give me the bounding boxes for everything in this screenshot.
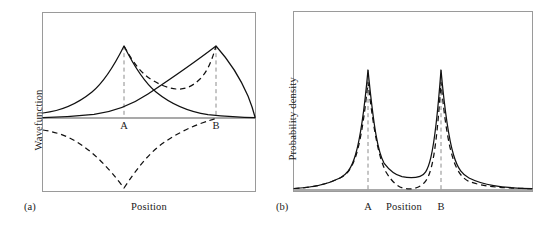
panel-b-curve-bonding-density: [294, 70, 532, 189]
panel-b-plot-svg: [0, 0, 548, 228]
figure-container: Wavefunction Position (a) A B Probabilit…: [0, 0, 548, 228]
panel-b-curve-antibonding-density: [294, 82, 532, 189]
